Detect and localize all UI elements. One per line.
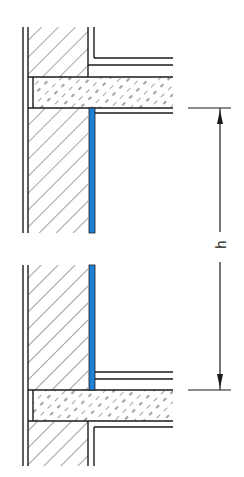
lower-detail <box>23 265 173 466</box>
section-drawing <box>0 0 244 477</box>
membrane-lower <box>89 265 95 390</box>
upper-detail <box>23 27 173 233</box>
membrane-upper <box>89 108 95 233</box>
dimension-label: h <box>212 237 229 253</box>
